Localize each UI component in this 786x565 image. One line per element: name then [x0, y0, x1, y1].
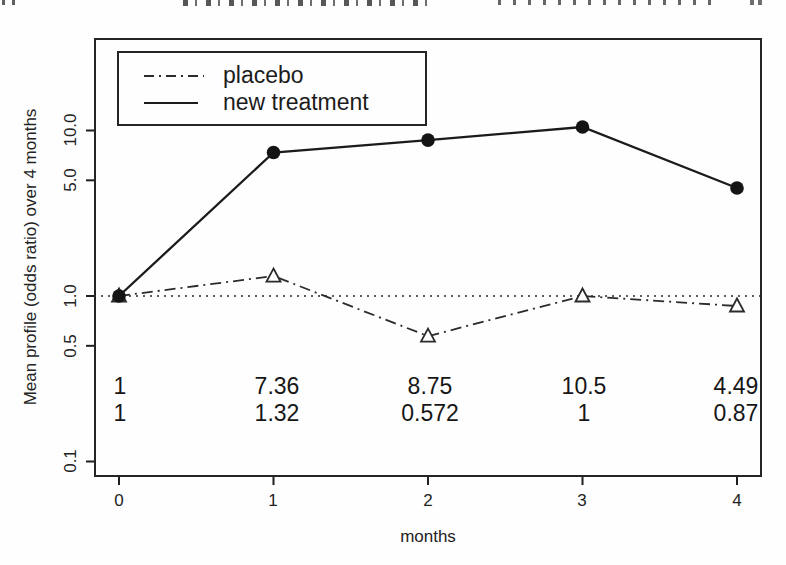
- value-label-treatment: 10.5: [562, 373, 607, 400]
- new-treatment-line: [119, 127, 737, 296]
- figure-page: placebo new treatment Mean profile (odds…: [0, 0, 786, 565]
- y-tick-label: 1.0: [61, 284, 81, 308]
- placebo-line-sample-icon: [143, 63, 205, 89]
- value-label-treatment: 4.49: [714, 373, 759, 400]
- x-tick-label: 1: [268, 491, 277, 511]
- x-tick-label: 0: [114, 491, 123, 511]
- new-treatment-marker: [576, 120, 590, 134]
- legend-item-new-treatment: new treatment: [119, 90, 425, 116]
- new-treatment-marker: [267, 146, 281, 160]
- new-treatment-marker: [112, 289, 126, 303]
- y-tick-label: 5.0: [61, 168, 81, 192]
- y-tick-label: 0.1: [61, 449, 81, 473]
- value-label-treatment: 8.75: [408, 373, 453, 400]
- legend-label-placebo: placebo: [223, 64, 304, 87]
- x-tick-label: 2: [423, 491, 432, 511]
- value-label-placebo: 1.32: [255, 400, 300, 427]
- value-label-treatment: 1: [114, 373, 127, 400]
- x-tick-label: 4: [732, 491, 741, 511]
- value-label-placebo: 1: [578, 400, 591, 427]
- legend-item-placebo: placebo: [119, 63, 425, 89]
- new-treatment-marker: [730, 181, 744, 195]
- x-tick-label: 3: [577, 491, 586, 511]
- y-tick-label: 0.5: [61, 334, 81, 358]
- x-axis-title: months: [400, 527, 456, 547]
- placebo-marker: [576, 289, 590, 302]
- new-treatment-marker: [421, 133, 435, 147]
- legend-label-new-treatment: new treatment: [223, 91, 369, 114]
- value-label-placebo: 0.572: [401, 400, 459, 427]
- value-label-placebo: 1: [114, 400, 127, 427]
- legend-box: placebo new treatment: [117, 51, 427, 126]
- value-label-placebo: 0.87: [714, 400, 759, 427]
- placebo-marker: [267, 269, 281, 282]
- new-treatment-line-sample-icon: [143, 90, 205, 116]
- value-label-treatment: 7.36: [255, 373, 300, 400]
- y-tick-label: 10.0: [61, 113, 81, 146]
- y-axis-title: Mean profile (odds ratio) over 4 months: [21, 109, 41, 406]
